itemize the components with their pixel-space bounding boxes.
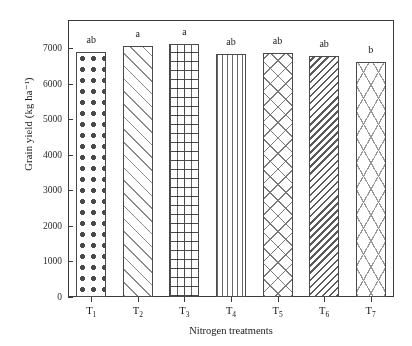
x-tick-mark (184, 297, 185, 302)
y-tick-label: 7000 (0, 43, 62, 53)
significance-letter: a (182, 26, 186, 37)
x-tick-label: T4 (226, 305, 236, 319)
bar (356, 62, 386, 297)
bar (263, 53, 293, 297)
y-tick-mark (68, 297, 73, 298)
y-tick-mark (68, 48, 73, 49)
bar-pattern-fill (310, 57, 338, 296)
y-tick-label: 1000 (0, 256, 62, 266)
y-tick-mark (68, 84, 73, 85)
significance-letter: ab (273, 35, 282, 46)
y-tick-mark (68, 226, 73, 227)
x-axis-title: Nitrogen treatments (68, 325, 394, 336)
x-tick-label: T2 (133, 305, 143, 319)
x-tick-mark (231, 297, 232, 302)
bar (76, 52, 106, 297)
bar-pattern-fill (170, 45, 198, 296)
bar (169, 44, 199, 297)
x-tick-label: T7 (366, 305, 376, 319)
bar-pattern-fill (264, 54, 292, 296)
significance-letter: ab (87, 34, 96, 45)
x-tick-mark (371, 297, 372, 302)
significance-letter: ab (319, 38, 328, 49)
x-tick-label: T3 (179, 305, 189, 319)
bar-pattern-fill (357, 63, 385, 296)
bar (123, 46, 153, 297)
x-tick-label: T6 (319, 305, 329, 319)
bar-pattern-fill (217, 55, 245, 296)
x-tick-mark (278, 297, 279, 302)
significance-letter: ab (226, 36, 235, 47)
y-tick-mark (68, 261, 73, 262)
y-tick-label: 0 (0, 292, 62, 302)
bar (309, 56, 339, 297)
bar-pattern-fill (124, 47, 152, 296)
y-tick-label: 5000 (0, 114, 62, 124)
y-tick-label: 3000 (0, 185, 62, 195)
y-tick-mark (68, 119, 73, 120)
y-tick-label: 2000 (0, 221, 62, 231)
x-tick-mark (91, 297, 92, 302)
y-tick-mark (68, 155, 73, 156)
x-tick-label: T5 (272, 305, 282, 319)
x-tick-mark (138, 297, 139, 302)
y-tick-label: 6000 (0, 79, 62, 89)
bar (216, 54, 246, 297)
y-tick-label: 4000 (0, 150, 62, 160)
bar-pattern-fill (77, 53, 105, 296)
bar-chart-figure: Grain yield (kg ha⁻¹) 010002000300040005… (0, 0, 412, 346)
significance-letter: b (368, 44, 373, 55)
y-tick-mark (68, 190, 73, 191)
x-tick-label: T1 (86, 305, 96, 319)
significance-letter: a (136, 28, 140, 39)
x-axis-title-text: Nitrogen treatments (189, 325, 273, 336)
x-tick-mark (324, 297, 325, 302)
